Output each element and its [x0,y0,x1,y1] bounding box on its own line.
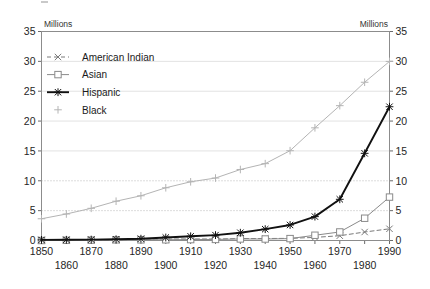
xtick-label-1920: 1920 [204,259,228,271]
ytick-label-right-5: 5 [396,204,402,216]
right-axis-tick-labels: 05101520253035 [396,25,408,246]
data-point-1850 [38,236,46,244]
ytick-label-left-25: 25 [24,85,36,97]
ytick-label-left-15: 15 [24,145,36,157]
ytick-label-left-35: 35 [24,25,36,37]
chart-canvas: 05101520253035 05101520253035 1850187018… [0,0,430,289]
data-point-1970 [337,229,343,235]
xtick-label-1990: 1990 [378,245,402,257]
xtick-label-1930: 1930 [229,245,253,257]
data-point-1850 [38,215,46,223]
legend-label: Asian [82,69,107,80]
xtick-label-1960: 1960 [303,259,327,271]
xtick-label-1880: 1880 [104,259,128,271]
xtick-label-1980: 1980 [353,259,377,271]
data-point-1960 [312,232,318,238]
legend-entry-black[interactable]: Black [54,105,107,116]
data-point-1950 [287,235,293,241]
data-point-1990 [386,194,392,200]
population-line-chart: 05101520253035 05101520253035 1850187018… [0,0,430,289]
xtick-label-1900: 1900 [154,259,178,271]
asterisk-marker-icon [54,88,62,96]
left-axis-unit-label: Millions [44,19,72,29]
ytick-label-right-35: 35 [396,25,408,37]
ytick-label-right-30: 30 [396,55,408,67]
xtick-label-1950: 1950 [278,245,302,257]
xtick-label-1870: 1870 [80,245,104,257]
data-point-1910 [187,178,195,186]
data-point-1930 [236,229,244,237]
data-point-1970 [336,195,344,203]
ytick-label-left-20: 20 [24,115,36,127]
data-point-1870 [87,236,95,244]
legend-label: Hispanic [82,87,120,98]
data-point-1930 [237,236,243,242]
data-point-1980 [361,149,369,157]
data-point-1990 [386,103,394,111]
xtick-label-1910: 1910 [179,245,203,257]
ytick-label-right-20: 20 [396,115,408,127]
xtick-label-1940: 1940 [254,259,278,271]
data-point-1880 [112,235,120,243]
data-point-1860 [63,210,71,218]
legend-entry-hispanic[interactable]: Hispanic [47,87,120,98]
data-point-1940 [261,225,269,233]
xtick-label-1860: 1860 [55,259,79,271]
xtick-label-1970: 1970 [328,245,352,257]
ytick-label-left-10: 10 [24,175,36,187]
data-point-1890 [137,235,145,243]
data-point-1940 [262,236,268,242]
data-point-1960 [311,213,319,221]
ytick-label-right-15: 15 [396,145,408,157]
series-line [42,107,390,240]
data-point-1860 [62,236,70,244]
ytick-label-left-30: 30 [24,55,36,67]
data-point-1880 [112,197,120,205]
legend-entry-asian[interactable]: Asian [47,69,107,80]
ytick-label-right-25: 25 [396,85,408,97]
plot-frame [42,32,390,241]
data-point-1900 [162,184,170,192]
ytick-label-right-10: 10 [396,175,408,187]
data-point-1980 [361,215,367,221]
left-axis-tick-labels: 05101520253035 [24,25,36,246]
xtick-label-1890: 1890 [129,245,153,257]
x-axis-tick-labels: 1850187018901910193019501970199018601880… [30,245,402,271]
right-axis-unit-label: Millions [360,19,388,29]
cropped-title-artifact [41,1,48,3]
data-point-1930 [237,166,245,174]
legend-label: American Indian [82,52,154,63]
legend-label: Black [82,105,107,116]
data-point-1890 [137,192,145,200]
tickmark-group [38,32,393,245]
xtick-label-1850: 1850 [30,245,54,257]
series-hispanic [38,103,394,244]
plus-marker-icon [54,106,62,114]
data-point-1950 [286,221,294,229]
data-point-1910 [187,232,195,240]
ytick-label-left-5: 5 [30,204,36,216]
data-point-1920 [212,231,220,239]
data-point-1870 [87,205,95,213]
data-point-1940 [261,160,269,168]
data-point-1900 [162,234,170,242]
square-marker-icon [55,71,61,77]
series-line [42,61,390,218]
